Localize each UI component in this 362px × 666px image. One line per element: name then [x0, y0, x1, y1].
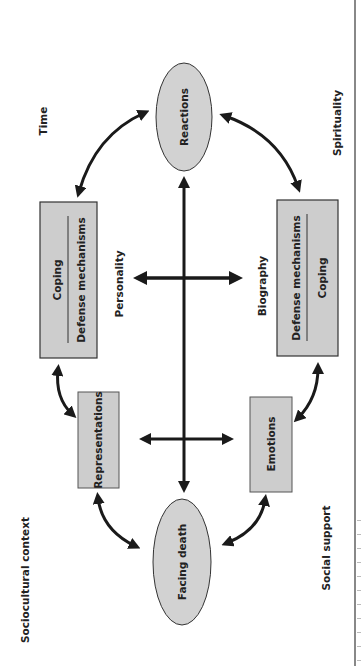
representations-label: Representations — [92, 391, 104, 489]
spirituality-label: Spirituality — [331, 90, 343, 156]
arrow-reactions-to-coping-right — [225, 116, 298, 187]
cropped-caption — [357, 520, 361, 666]
personality-label: Personality — [113, 250, 125, 317]
arrow-representations-to-facing-death — [98, 498, 135, 546]
biography-label: Biography — [256, 256, 268, 316]
reactions-label: Reactions — [178, 88, 190, 146]
coping-left-bottom-label: Defense mechanisms — [75, 217, 87, 342]
coping-right-bottom-label: Coping — [316, 257, 328, 298]
arrow-emotions-to-facing-death — [227, 500, 265, 543]
facing-death-label: Facing death — [176, 524, 188, 600]
arrow-coping-left-to-representations — [58, 370, 72, 414]
arrow-coping-right-to-emotions — [298, 368, 318, 418]
coping-left-top-label: Coping — [51, 259, 63, 300]
social-support-label: Social support — [320, 505, 332, 590]
sociocultural-context-label: Sociocultural context — [19, 517, 31, 643]
time-label: Time — [37, 107, 49, 136]
coping-right-top-label: Defense mechanisms — [290, 215, 302, 340]
figure-border — [354, 0, 356, 666]
arrow-coping-left-to-reactions — [79, 113, 144, 192]
emotions-label: Emotions — [265, 417, 277, 472]
